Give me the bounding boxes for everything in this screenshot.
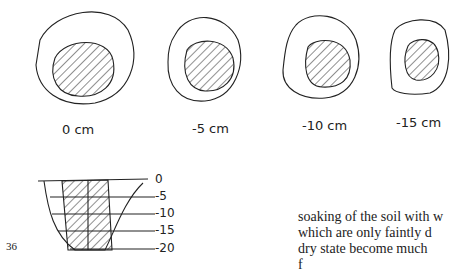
depth-label: -10 <box>155 206 175 220</box>
section-label: -15 cm <box>396 115 441 130</box>
depth-label: -15 <box>155 223 175 237</box>
depth-label: 0 <box>155 172 163 186</box>
depth-label: -20 <box>155 241 175 255</box>
section-label: -5 cm <box>192 121 229 136</box>
text-line: soaking of the soil with w <box>298 209 460 225</box>
body-text: soaking of the soil with w which are onl… <box>298 209 460 273</box>
section-label: 0 cm <box>62 122 94 137</box>
section-label: -10 cm <box>302 118 347 133</box>
text-line: which are only faintly d <box>298 225 460 241</box>
text-line: dry state become much <box>298 241 460 257</box>
page-number: 36 <box>6 240 17 252</box>
text-line: f <box>298 257 460 273</box>
depth-label: -5 <box>155 189 167 203</box>
